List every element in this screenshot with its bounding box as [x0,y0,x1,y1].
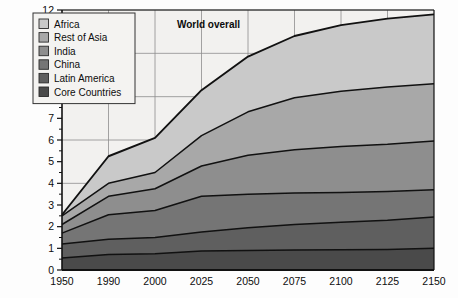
y-tick-label: 7 [48,112,54,124]
legend-item-label: Core Countries [54,87,121,98]
x-tick-label: 2150 [422,275,446,287]
legend-swatch [39,87,49,97]
legend[interactable]: AfricaRest of AsiaIndiaChinaLatin Americ… [33,13,135,104]
legend-item-india[interactable]: India [39,46,76,57]
legend-item-label: China [54,59,81,70]
legend-item-label: Rest of Asia [54,32,108,43]
legend-swatch [39,33,49,43]
legend-item-china[interactable]: China [39,59,81,70]
x-axis-ticks: 195019902000202520502075210021252150 [50,275,446,287]
legend-item-label: Africa [54,19,80,30]
y-tick-label: 3 [48,199,54,211]
x-tick-label: 1950 [50,275,74,287]
y-tick-label: 1 [48,242,54,254]
stacked-area-chart: 0123456789101112195019902000202520502075… [0,0,458,298]
y-tick-label: 5 [48,155,54,167]
legend-swatch [39,73,49,83]
y-tick-label: 2 [48,220,54,232]
legend-item-label: India [54,46,76,57]
annotation-world-overall: World overall [177,19,240,30]
x-tick-label: 2100 [329,275,353,287]
legend-swatch [39,60,49,70]
x-tick-label: 2025 [190,275,214,287]
x-tick-label: 2075 [283,275,307,287]
legend-swatch [39,19,49,29]
y-tick-label: 4 [48,177,54,189]
legend-item-label: Latin America [54,73,115,84]
annotations: World overall [177,19,240,30]
legend-item-africa[interactable]: Africa [39,19,80,30]
legend-swatch [39,46,49,56]
x-tick-label: 2000 [143,275,167,287]
y-tick-label: 6 [48,134,54,146]
y-tick-label: 0 [48,264,54,276]
x-tick-label: 2050 [236,275,260,287]
x-tick-label: 2125 [376,275,400,287]
x-tick-label: 1990 [97,275,121,287]
chart-canvas: 0123456789101112195019902000202520502075… [0,0,458,298]
